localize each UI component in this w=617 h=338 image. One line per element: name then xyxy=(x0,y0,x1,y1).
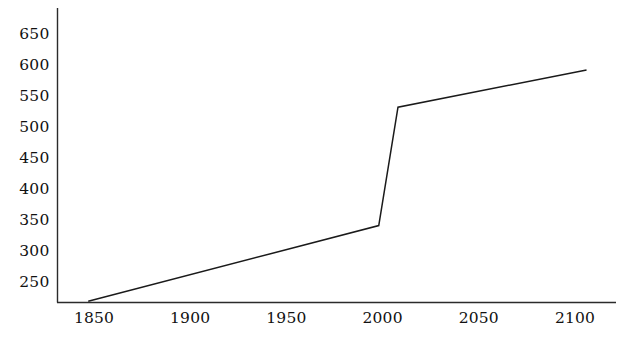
y-tick-label: 300 xyxy=(19,242,49,260)
x-tick-label: 2050 xyxy=(459,309,499,327)
x-tick-label: 2000 xyxy=(362,309,402,327)
series-group xyxy=(88,70,586,301)
y-tick-label: 350 xyxy=(19,211,49,229)
y-tick-label: 500 xyxy=(19,118,49,136)
y-tick-label: 250 xyxy=(19,273,49,291)
x-tick-label: 2100 xyxy=(555,309,595,327)
y-tick-label: 550 xyxy=(19,87,49,105)
chart-canvas xyxy=(0,0,617,338)
y-tick-label: 600 xyxy=(19,56,49,74)
x-tick-label: 1850 xyxy=(74,309,114,327)
x-tick-label: 1950 xyxy=(266,309,306,327)
y-tick-label: 450 xyxy=(19,149,49,167)
y-tick-label: 400 xyxy=(19,180,49,198)
line-chart: 250300350400450500550600650 185019001950… xyxy=(0,0,617,338)
axis-group xyxy=(57,8,616,303)
data-line-series-1 xyxy=(88,70,586,301)
x-tick-label: 1900 xyxy=(170,309,210,327)
y-tick-label: 650 xyxy=(19,25,49,43)
